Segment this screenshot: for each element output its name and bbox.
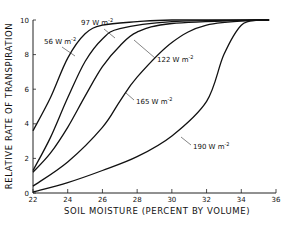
x-tick-label: 28 [133,196,142,204]
y-tick-label: 6 [25,86,30,94]
y-tick-label: 8 [25,51,29,59]
curve-label-165: 165 W m-2 [136,96,173,106]
leader-line [134,40,155,58]
curve-labels: 56 W m-297 W m-2122 W m-2165 W m-2190 W … [44,17,230,151]
curve-label-56: 56 W m-2 [44,36,76,46]
y-axis-title: RELATIVE RATE OF TRANSPIRATION [4,23,14,190]
x-tick-label: 36 [272,196,281,204]
x-tick-label: 26 [98,196,107,204]
y-tick-label: 0 [25,190,29,198]
x-tick-label: 22 [29,196,38,204]
x-tick-label: 24 [63,196,72,204]
leader-line [181,137,191,145]
x-tick-label: 32 [202,196,211,204]
curve-label-122: 122 W m-2 [157,54,194,64]
leader-line [126,93,134,100]
y-tick-label: 10 [20,17,29,25]
y-tick-label: 4 [25,120,30,128]
curve-label-190: 190 W m-2 [193,141,230,151]
x-axis-title: SOIL MOISTURE (PERCENT BY VOLUME) [64,206,250,216]
x-tick-label: 34 [237,196,246,204]
curve-label-97: 97 W m-2 [81,17,113,27]
x-tick-label: 30 [167,196,176,204]
transpiration-chart: 22242628303234360246810 56 W m-297 W m-2… [0,0,292,225]
y-tick-label: 2 [25,155,29,163]
